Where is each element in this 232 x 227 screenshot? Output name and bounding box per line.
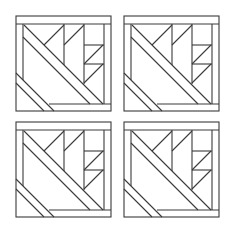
small-diagonal-1 — [44, 131, 64, 151]
column-diagonal-1 — [84, 151, 103, 170]
small-diagonal-2 — [64, 131, 84, 151]
main-diagonal-b — [131, 37, 198, 104]
main-diagonal-b — [23, 37, 90, 104]
column-diagonal-2 — [192, 64, 211, 83]
corner-strip-line-1 — [124, 179, 162, 217]
small-diagonal-2 — [172, 25, 192, 45]
quilt-block-bottom-right — [123, 121, 220, 218]
quilt-block-bottom-left — [15, 121, 112, 218]
main-diagonal-b — [131, 143, 198, 210]
corner-strip-line-1 — [16, 179, 54, 217]
column-diagonal-2 — [84, 64, 103, 83]
column-diagonal-2 — [192, 170, 211, 189]
small-diagonal-1 — [44, 25, 64, 45]
corner-strip-line-1 — [124, 73, 162, 111]
column-diagonal-1 — [192, 151, 211, 170]
small-diagonal-2 — [172, 131, 192, 151]
main-diagonal-b — [23, 143, 90, 210]
column-diagonal-2 — [84, 170, 103, 189]
corner-strip-line-1 — [16, 73, 54, 111]
column-diagonal-1 — [84, 45, 103, 64]
small-diagonal-2 — [64, 25, 84, 45]
column-diagonal-1 — [192, 45, 211, 64]
quilt-block-top-right — [123, 15, 220, 112]
quilt-block-top-left — [15, 15, 112, 112]
small-diagonal-1 — [152, 131, 172, 151]
small-diagonal-1 — [152, 25, 172, 45]
